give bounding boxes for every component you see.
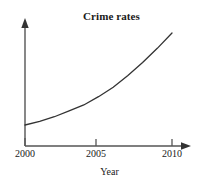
x-axis-title: Year — [0, 166, 199, 177]
x-tick-label-2010: 2010 — [155, 148, 189, 159]
crime-rate-curve — [25, 33, 172, 125]
chart-figure: Crime rates 2000 2005 2010 Year — [0, 0, 199, 186]
chart-title: Crime rates — [0, 10, 199, 22]
x-tick-label-2000: 2000 — [8, 148, 42, 159]
x-tick-label-2005: 2005 — [79, 148, 113, 159]
